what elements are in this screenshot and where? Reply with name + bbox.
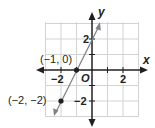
y-axis-label: y: [97, 5, 106, 19]
origin-label: O: [81, 72, 90, 84]
x-tick-neg2: −2: [51, 73, 64, 85]
x-tick-2: 2: [120, 73, 126, 85]
point-neg2-neg2: [58, 98, 63, 103]
x-axis-right-arrow-icon: [140, 67, 148, 74]
point-label-neg2-neg2: (−2, −2): [8, 94, 47, 106]
point-label-neg1-0: (−1, 0): [40, 53, 72, 65]
y-tick-neg2: −2: [74, 95, 87, 107]
y-axis-down-arrow-icon: [89, 119, 96, 127]
y-tick-2: 2: [83, 33, 89, 45]
y-axis-up-arrow-icon: [89, 12, 96, 20]
coordinate-plane: y x O −2 2 2 −2 (−1, 0) (−2, −2): [0, 0, 155, 128]
x-axis-left-arrow-icon: [36, 67, 44, 74]
x-axis-label: x: [142, 53, 151, 67]
point-neg1-0: [74, 67, 79, 72]
